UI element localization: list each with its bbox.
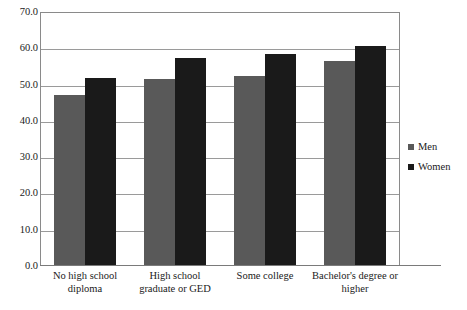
legend-label-women: Women <box>418 162 450 173</box>
x-label-line: graduate or GED <box>118 282 232 295</box>
y-tick-label: 40.0 <box>2 116 38 127</box>
bar-group <box>310 12 400 266</box>
y-tick-label: 70.0 <box>2 7 38 18</box>
x-label-line: Bachelor's degree or <box>298 269 412 282</box>
bars-layer <box>40 12 400 266</box>
legend-item-men: Men <box>408 142 466 153</box>
bar-women-1 <box>175 58 206 266</box>
bar-men-1 <box>144 79 175 266</box>
bar-men-2 <box>234 76 265 267</box>
bar-women-3 <box>355 46 386 266</box>
bar-women-0 <box>85 78 116 266</box>
bar-men-3 <box>324 61 355 266</box>
y-tick-label: 10.0 <box>2 224 38 235</box>
bar-group <box>40 12 130 266</box>
legend-label-men: Men <box>418 142 437 153</box>
y-tick-label: 50.0 <box>2 79 38 90</box>
men-swatch-icon <box>408 144 414 150</box>
legend-item-women: Women <box>408 162 466 173</box>
x-axis-line <box>40 265 441 266</box>
legend: Men Women <box>408 142 466 181</box>
y-tick-label: 20.0 <box>2 188 38 199</box>
x-label-line: higher <box>298 282 412 295</box>
x-label-3: Bachelor's degree orhigher <box>298 269 412 295</box>
bar-group <box>220 12 310 266</box>
y-tick-label: 60.0 <box>2 43 38 54</box>
x-axis-category-labels: No high schooldiplomaHigh schoolgraduate… <box>40 269 400 309</box>
bar-men-0 <box>54 95 85 266</box>
y-axis: 0.010.020.030.040.050.060.070.0 <box>0 0 38 310</box>
women-swatch-icon <box>408 164 414 170</box>
y-tick-label: 30.0 <box>2 152 38 163</box>
bar-group <box>130 12 220 266</box>
bar-chart: 0.010.020.030.040.050.060.070.0 No high … <box>0 0 467 310</box>
bar-women-2 <box>265 54 296 266</box>
